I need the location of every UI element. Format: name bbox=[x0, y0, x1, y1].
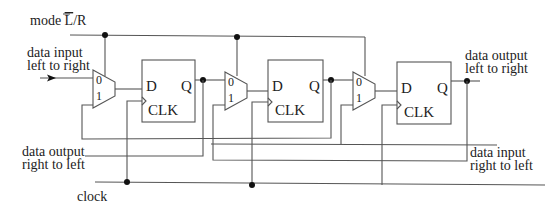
flip-flop-1: D Q CLK bbox=[142, 60, 195, 122]
svg-text:D: D bbox=[146, 78, 157, 94]
svg-text:1: 1 bbox=[96, 89, 102, 103]
svg-text:CLK: CLK bbox=[275, 102, 305, 118]
shift-register-diagram: mode L/R data input left to right 0 1 D … bbox=[0, 0, 549, 212]
data-input-lr-label-2: left to right bbox=[27, 58, 90, 73]
svg-text:Q: Q bbox=[181, 78, 192, 94]
flip-flop-2: D Q CLK bbox=[268, 60, 323, 122]
svg-text:0: 0 bbox=[356, 75, 362, 89]
junction-dot bbox=[234, 34, 240, 40]
junction-dot bbox=[102, 32, 108, 38]
svg-text:1: 1 bbox=[228, 91, 234, 105]
data-output-rl-label-2: right to left bbox=[22, 157, 85, 172]
svg-text:Q: Q bbox=[437, 80, 448, 96]
clock-label: clock bbox=[77, 189, 107, 204]
svg-text:CLK: CLK bbox=[404, 104, 434, 120]
svg-text:D: D bbox=[272, 78, 283, 94]
mode-label: mode L/R bbox=[30, 13, 87, 28]
junction-dot bbox=[249, 182, 255, 188]
svg-text:1: 1 bbox=[356, 91, 362, 105]
svg-text:CLK: CLK bbox=[148, 102, 178, 118]
mux-3: 0 1 bbox=[353, 72, 375, 110]
mux-2: 0 1 bbox=[225, 72, 247, 110]
svg-text:0: 0 bbox=[228, 75, 234, 89]
svg-text:0: 0 bbox=[96, 73, 102, 87]
data-input-rl-label-2: right to left bbox=[470, 158, 533, 173]
mode-overbar-l: L bbox=[65, 13, 74, 28]
junction-dot bbox=[124, 179, 130, 185]
svg-text:Q: Q bbox=[309, 78, 320, 94]
flip-flop-3: D Q CLK bbox=[397, 62, 451, 124]
data-output-lr-label-2: left to right bbox=[465, 61, 528, 76]
mux-1: 0 1 bbox=[93, 70, 115, 108]
svg-text:D: D bbox=[401, 80, 412, 96]
